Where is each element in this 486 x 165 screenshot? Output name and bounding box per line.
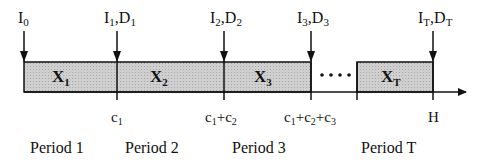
arrival-label-0: I0 xyxy=(18,10,29,28)
arrival-label-1: I1,D1 xyxy=(104,10,136,28)
segment-label-2: X2 xyxy=(150,68,168,88)
ellipsis-dots xyxy=(320,73,351,77)
segment-label-1: X1 xyxy=(52,68,70,88)
period-label-T: Period T xyxy=(361,140,416,156)
segment-label-3: X3 xyxy=(254,68,272,88)
arrival-label-2: I2,D2 xyxy=(210,10,242,28)
period-label-3: Period 3 xyxy=(232,140,286,156)
period-label-2: Period 2 xyxy=(125,140,179,156)
tick-label-c1c2c3: c1+c2+c3 xyxy=(284,110,336,127)
period-label-1: Period 1 xyxy=(30,140,84,156)
arrival-label-3: I3,D3 xyxy=(297,10,329,28)
tick-label-c1: c1 xyxy=(111,110,123,127)
segment-label-T: XT xyxy=(381,68,401,88)
arrival-label-T: IT,DT xyxy=(418,10,452,28)
tick-label-H: H xyxy=(428,110,439,125)
tick-label-c1c2: c1+c2 xyxy=(205,110,237,127)
